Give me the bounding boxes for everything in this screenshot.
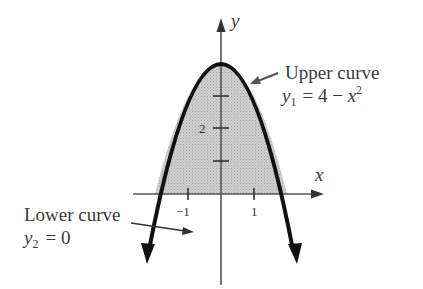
lower-eq-sub: 2	[32, 237, 38, 251]
lower-eq-lhs: y	[22, 227, 33, 248]
upper-curve-title: Upper curve	[285, 62, 379, 83]
lower-eq-rhs: = 0	[45, 227, 70, 248]
y-axis-label: y	[229, 10, 240, 31]
lower-curve-pointer	[131, 223, 194, 235]
lower-curve-title: Lower curve	[24, 204, 121, 225]
x-axis-label: x	[314, 164, 324, 185]
lower-curve-equation: y2= 0	[22, 227, 70, 251]
x-tick-label-1: 1	[251, 204, 258, 219]
upper-eq-rhs: = 4 −	[302, 85, 347, 106]
upper-curve-pointer	[250, 73, 278, 84]
upper-eq-lhs: y	[280, 85, 291, 106]
right-curve-arrow-icon	[288, 243, 302, 264]
y-tick-label-2: 2	[199, 121, 206, 136]
upper-eq-sub: 1	[290, 95, 296, 109]
x-tick-label-neg1: −1	[176, 204, 190, 219]
upper-eq-exp: 2	[356, 83, 362, 97]
x-axis-arrow-icon	[311, 190, 324, 199]
y-axis-arrow-icon	[217, 18, 226, 32]
upper-pointer-arrowhead-icon	[250, 76, 261, 84]
area-between-curves-diagram: y x −1 1 2 Upper curve y1= 4 − x2 Lower …	[0, 0, 423, 289]
lower-pointer-arrowhead-icon	[182, 227, 194, 235]
left-curve-arrow-icon	[141, 243, 155, 264]
upper-curve-equation: y1= 4 − x2	[280, 83, 362, 109]
